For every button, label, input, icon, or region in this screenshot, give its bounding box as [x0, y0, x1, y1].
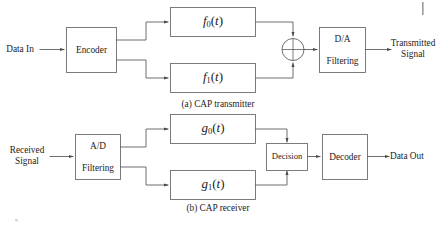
label-decision: Decision — [265, 152, 309, 162]
label-received-signal: Signal — [4, 156, 50, 167]
matched-g1-paren-close: ) — [220, 176, 224, 191]
label-matched-g1: g1(t) — [170, 177, 256, 193]
caption-transmitter: (a) CAP transmitter — [143, 99, 293, 109]
label-data-out: Data Out — [390, 151, 438, 161]
label-filter-f0: f0(t) — [170, 14, 256, 30]
wire-f0-to-summer — [256, 22, 294, 36]
wire-g1-to-decision — [256, 171, 288, 185]
scan-edge-artifact-top-right — [422, 2, 424, 15]
label-data-in: Data In — [0, 44, 40, 54]
wire-f1-to-summer — [256, 63, 294, 78]
matched-g0-paren-close: ) — [220, 120, 224, 135]
label-matched-g0: g0(t) — [170, 121, 256, 137]
filter-f1-paren-close: ) — [219, 69, 223, 84]
block-diagram-canvas — [0, 0, 438, 227]
label-received: Received — [4, 145, 50, 156]
label-ad: A/D — [75, 141, 121, 151]
label-da: D/A — [319, 34, 366, 44]
filter-f0-paren-close: ) — [219, 13, 223, 28]
label-transmitted: Transmitted — [388, 38, 438, 49]
wire-encoder-to-f1 — [117, 60, 169, 78]
wire-ad-to-g1 — [121, 167, 169, 185]
label-ad-filtering: Filtering — [75, 163, 121, 173]
label-transmitted-signal: Signal — [388, 49, 438, 60]
caption-receiver: (b) CAP receiver — [143, 203, 293, 213]
wire-encoder-to-f0 — [117, 22, 169, 40]
label-decoder: Decoder — [322, 152, 368, 162]
label-filter-f1: f1(t) — [170, 70, 256, 86]
label-encoder: Encoder — [66, 45, 117, 55]
wire-g0-to-decision — [256, 129, 288, 142]
wire-ad-to-g0 — [121, 129, 169, 147]
figure-container: Data In Encoder f0(t) f1(t) D/A Filterin… — [0, 0, 438, 227]
scan-speck-bottom-left — [15, 219, 18, 221]
label-da-filtering: Filtering — [319, 56, 366, 66]
